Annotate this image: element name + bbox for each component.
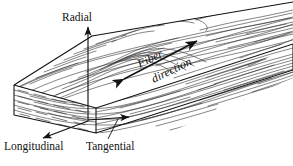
wood-orientation-figure: Radial Longitudinal Tangential Fiber dir… [0,0,293,166]
front-bottom-edge [96,70,293,133]
label-tangential: Tangential [86,140,134,152]
label-longitudinal: Longitudinal [4,140,63,152]
label-radial: Radial [62,11,92,23]
